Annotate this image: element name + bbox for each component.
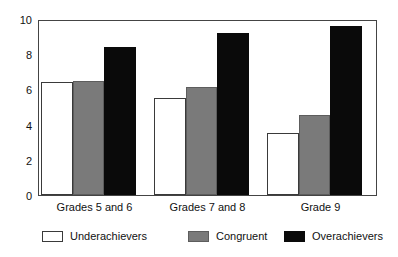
legend-label: Congruent [216,231,267,242]
y-tick-label: 0 [2,191,32,202]
legend-item-overachievers[interactable]: Overachievers [284,228,383,244]
legend-item-underachievers[interactable]: Underachievers [42,228,147,244]
black-swatch [284,231,305,242]
bar-overachievers-group-3 [330,26,362,195]
bar-congruent-group-1 [73,81,105,195]
category-label: Grades 5 and 6 [38,202,151,213]
y-tick-label: 8 [2,50,32,61]
y-tick-label: 6 [2,85,32,96]
bar-underachievers-group-1 [41,82,73,195]
legend-label: Overachievers [312,231,383,242]
y-tick-label: 2 [2,156,32,167]
y-tick-label: 10 [2,15,32,26]
category-label: Grades 7 and 8 [151,202,264,213]
gray-swatch [188,231,209,242]
grouped-bar-chart: 0246810 Grades 5 and 6Grades 7 and 8Grad… [0,0,398,257]
category-label: Grade 9 [264,202,377,213]
chart-legend: UnderachieversCongruentOverachievers [38,228,377,244]
bar-overachievers-group-2 [217,33,249,195]
y-tick-label: 4 [2,121,32,132]
bar-underachievers-group-3 [267,133,299,195]
white-swatch [42,231,63,242]
bar-congruent-group-2 [186,87,218,195]
legend-label: Underachievers [70,231,147,242]
bar-congruent-group-3 [299,115,331,195]
legend-item-congruent[interactable]: Congruent [188,228,267,244]
bar-overachievers-group-1 [104,47,136,195]
bar-underachievers-group-2 [154,98,186,195]
plot-area [38,20,377,196]
